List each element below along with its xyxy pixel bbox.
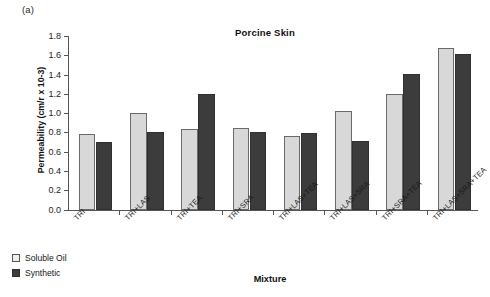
y-axis-tick <box>64 94 68 95</box>
y-axis-tick <box>64 55 68 56</box>
y-axis-tick <box>64 152 68 153</box>
legend-swatch-icon <box>12 254 20 262</box>
x-axis-tick <box>273 211 274 215</box>
y-axis-tick-label: 0.0 <box>48 205 61 215</box>
x-axis-tick <box>119 211 120 215</box>
legend-item[interactable]: Soluble Oil <box>12 250 67 265</box>
y-axis-tick <box>64 132 68 133</box>
chart-legend: Soluble OilSynthetic <box>12 250 67 280</box>
y-axis-tick-label: 1.6 <box>48 50 61 60</box>
y-axis-tick-label: 1.8 <box>48 31 61 41</box>
x-axis-tick <box>427 211 428 215</box>
x-axis-tick <box>222 211 223 215</box>
y-axis-tick-label: 1.4 <box>48 70 61 80</box>
y-axis-tick-label: 0.2 <box>48 185 61 195</box>
bar-soluble-oil[interactable] <box>386 94 403 210</box>
bar-group <box>130 36 164 210</box>
legend-item[interactable]: Synthetic <box>12 265 67 280</box>
y-axis-tick-label: 0.8 <box>48 127 61 137</box>
bar-group <box>181 36 215 210</box>
y-axis-tick <box>64 210 68 211</box>
y-axis-tick-label: 1.0 <box>48 108 61 118</box>
y-axis-tick <box>64 75 68 76</box>
legend-swatch-icon <box>12 269 20 277</box>
bar-soluble-oil[interactable] <box>438 48 455 210</box>
bar-group <box>233 36 267 210</box>
bar-soluble-oil[interactable] <box>79 134 96 209</box>
legend-label: Soluble Oil <box>25 253 67 263</box>
y-axis-tick-label: 0.6 <box>48 147 61 157</box>
x-axis-tick <box>324 211 325 215</box>
y-axis-tick-label: 1.2 <box>48 89 61 99</box>
figure-panel-label: (a) <box>22 4 34 15</box>
x-axis-title: Mixture <box>0 274 490 284</box>
y-axis-tick-label: 0.4 <box>48 166 61 176</box>
legend-label: Synthetic <box>25 268 60 278</box>
bar-group <box>79 36 113 210</box>
bar-synthetic[interactable] <box>96 142 113 210</box>
y-axis-tick <box>64 171 68 172</box>
y-axis-tick <box>64 113 68 114</box>
x-axis-tick <box>376 211 377 215</box>
bar-synthetic[interactable] <box>198 94 215 210</box>
x-axis-tick <box>171 211 172 215</box>
y-axis-line <box>68 36 69 211</box>
y-axis-tick <box>64 190 68 191</box>
y-axis-tick <box>64 36 68 37</box>
